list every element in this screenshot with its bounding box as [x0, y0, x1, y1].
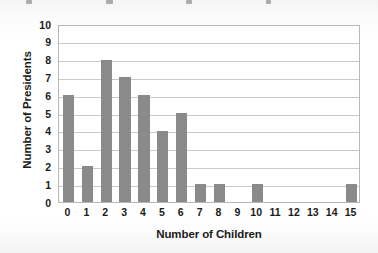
x-tick-label: 10: [246, 206, 266, 218]
bar: [176, 113, 187, 202]
bar: [63, 95, 74, 202]
bar-series: [59, 26, 359, 202]
y-tick-label: 9: [29, 37, 51, 48]
x-axis-tick-labels: 0123456789101112131415: [58, 206, 360, 222]
bar: [157, 131, 168, 202]
plot-area: [58, 25, 360, 203]
y-tick-label: 8: [29, 55, 51, 66]
y-tick-label: 1: [29, 180, 51, 191]
y-axis-tick-labels: 012345678910: [0, 0, 58, 253]
y-tick-label: 10: [29, 20, 51, 31]
x-tick-label: 7: [190, 206, 210, 218]
bar: [101, 60, 112, 202]
x-tick-label: 2: [95, 206, 115, 218]
x-tick-label: 14: [322, 206, 342, 218]
y-tick-label: 7: [29, 73, 51, 84]
y-tick-label: 0: [29, 198, 51, 209]
x-tick-label: 11: [265, 206, 285, 218]
bar: [138, 95, 149, 202]
text-fragment: [106, 0, 113, 4]
text-fragment: [266, 0, 271, 4]
y-tick-label: 3: [29, 144, 51, 155]
y-tick-label: 4: [29, 126, 51, 137]
bar: [252, 184, 263, 202]
x-tick-label: 9: [227, 206, 247, 218]
x-axis-title: Number of Children: [58, 228, 360, 240]
bar-chart-figure: Number of Presidents 012345678910 012345…: [0, 0, 378, 253]
x-tick-label: 8: [208, 206, 228, 218]
y-tick-label: 5: [29, 109, 51, 120]
x-tick-label: 6: [171, 206, 191, 218]
y-tick-label: 6: [29, 91, 51, 102]
bar: [119, 77, 130, 202]
x-tick-label: 15: [341, 206, 361, 218]
x-tick-label: 13: [303, 206, 323, 218]
x-tick-label: 12: [284, 206, 304, 218]
x-tick-label: 1: [76, 206, 96, 218]
bar: [214, 184, 225, 202]
bar: [82, 166, 93, 202]
x-tick-label: 0: [57, 206, 77, 218]
bar: [346, 184, 357, 202]
x-tick-label: 3: [114, 206, 134, 218]
x-tick-label: 5: [152, 206, 172, 218]
bar: [195, 184, 206, 202]
x-tick-label: 4: [133, 206, 153, 218]
text-fragment: [186, 0, 192, 4]
y-tick-label: 2: [29, 162, 51, 173]
